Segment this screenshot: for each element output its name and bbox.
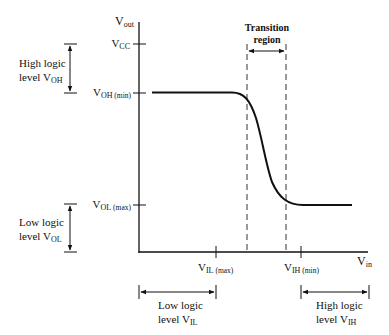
label-vil-max: VIL (max) (198, 261, 233, 277)
y-axis-label: Vout (115, 15, 134, 31)
high-input-level-label: High logic level VIH (316, 298, 363, 330)
transition-region-label: Transition region (236, 22, 298, 46)
label-vcc: VCC (90, 37, 130, 53)
label-voh-min: VOH (min) (60, 86, 131, 102)
low-input-level-label: Low logic level VIL (158, 298, 203, 330)
label-vol-max: VOL (max) (60, 198, 131, 214)
x-axis-label: Vin (357, 255, 372, 271)
label-vih-min: VIH (min) (284, 261, 319, 277)
low-output-level-label: Low logic level VOL (19, 215, 64, 247)
transfer-curve (152, 93, 352, 206)
transfer-characteristic-diagram (0, 0, 389, 335)
high-output-level-label: High logic level VOH (19, 56, 66, 88)
